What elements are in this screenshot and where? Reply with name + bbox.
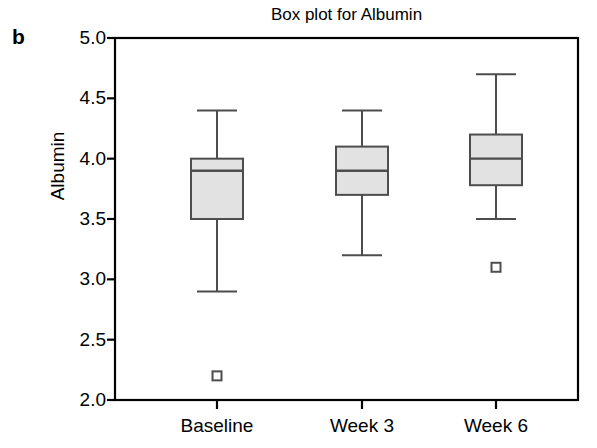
box-iqr [470, 135, 522, 186]
box-plot-series [470, 74, 522, 272]
outlier-marker [213, 371, 222, 380]
plot-canvas [0, 0, 597, 448]
outlier-marker [492, 263, 501, 272]
box-plot-figure: b Box plot for Albumin Albumin 5.04.54.0… [0, 0, 597, 448]
box-iqr [191, 159, 243, 219]
box-plot-series [336, 110, 388, 255]
box-plot-series [191, 110, 243, 380]
